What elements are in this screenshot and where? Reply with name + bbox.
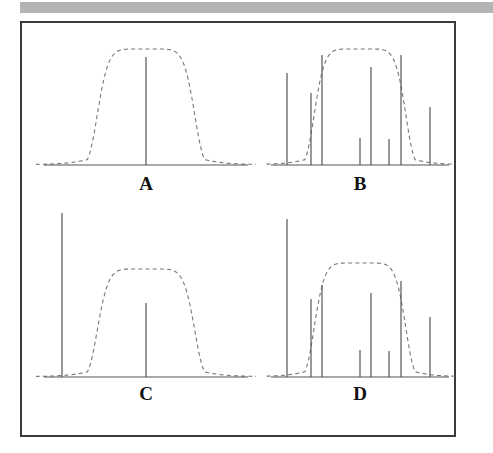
panel-c-plot (36, 205, 256, 385)
panel-c-label: C (36, 383, 256, 405)
panel-c: C (36, 205, 256, 405)
panel-a: A (36, 33, 256, 193)
panel-a-label: A (36, 173, 256, 195)
panel-d: D (265, 205, 455, 405)
panel-d-label: D (265, 383, 455, 405)
panel-d-plot (265, 205, 455, 385)
panel-a-plot (36, 33, 256, 173)
figure-page: A B C D (0, 0, 493, 453)
top-gray-band (20, 2, 493, 13)
panel-b-plot (265, 33, 455, 173)
figure-frame: A B C D (20, 21, 456, 437)
panel-b-label: B (265, 173, 455, 195)
panel-b: B (265, 33, 455, 193)
